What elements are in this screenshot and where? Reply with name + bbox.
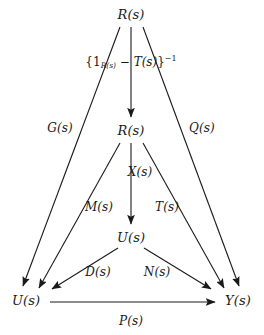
formula-exponent: −1 bbox=[165, 54, 177, 63]
formula-operator-term: T(s) bbox=[134, 55, 158, 69]
node-u-middle[interactable]: U(s) bbox=[117, 230, 145, 245]
edge-label-q: Q(s) bbox=[189, 121, 215, 135]
node-y-bottom-right[interactable]: Y(s) bbox=[225, 293, 251, 308]
edge-label-inverse-formula: {1R(s) − T(s)}−1 bbox=[85, 54, 176, 69]
edge-label-x: X(s) bbox=[128, 165, 152, 179]
edge-label-g: G(s) bbox=[47, 121, 73, 135]
formula-minus: − bbox=[116, 55, 134, 69]
node-r-top[interactable]: R(s) bbox=[117, 7, 144, 22]
edge-label-p: P(s) bbox=[119, 314, 143, 328]
edge-label-d: D(s) bbox=[85, 265, 111, 279]
node-r-middle[interactable]: R(s) bbox=[117, 123, 144, 138]
diagram-canvas: R(s) R(s) U(s) U(s) Y(s) {1R(s) − T(s)}−… bbox=[0, 0, 264, 335]
node-u-bottom-left[interactable]: U(s) bbox=[12, 293, 40, 308]
edge-label-n: N(s) bbox=[144, 265, 170, 279]
edge-label-m: M(s) bbox=[85, 200, 113, 214]
edge-label-t: T(s) bbox=[155, 200, 179, 214]
formula-close-brace: } bbox=[157, 55, 165, 69]
formula-subscript: R(s) bbox=[101, 61, 116, 70]
formula-open-brace: {1 bbox=[85, 55, 100, 69]
